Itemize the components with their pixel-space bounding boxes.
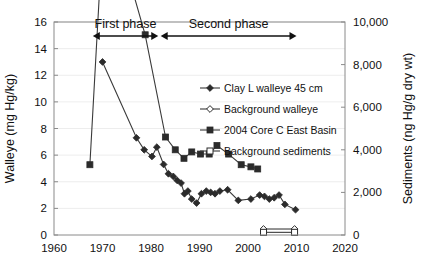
y2-tick-label: 0 bbox=[353, 229, 359, 241]
data-point-marker bbox=[181, 155, 187, 161]
y-tick-label: 12 bbox=[34, 69, 47, 81]
phase-label: First phase bbox=[95, 17, 157, 31]
x-tick-label: 2000 bbox=[235, 242, 261, 254]
legend-label: Clay L walleye 45 cm bbox=[224, 82, 323, 94]
x-tick-label: 1970 bbox=[90, 242, 116, 254]
legend-label: 2004 Core C East Basin bbox=[224, 124, 337, 136]
y-tick-label: 2 bbox=[41, 202, 47, 214]
data-point-marker bbox=[248, 164, 254, 170]
data-point-marker bbox=[189, 149, 195, 155]
x-tick-label: 1980 bbox=[138, 242, 164, 254]
x-tick-label: 2010 bbox=[284, 242, 310, 254]
data-point-marker bbox=[163, 134, 169, 140]
phase-annotations: First phaseSecond phase bbox=[93, 17, 297, 40]
walleye-sediment-mercury-chart: 0246810121416 02,0004,0006,0008,00010,00… bbox=[0, 0, 425, 269]
chart-background bbox=[0, 0, 425, 269]
x-tick-label: 1960 bbox=[41, 242, 67, 254]
y-tick-label: 16 bbox=[34, 16, 47, 28]
y2-tick-label: 4,000 bbox=[353, 144, 382, 156]
data-point-marker bbox=[292, 229, 298, 235]
y2-tick-label: 2,000 bbox=[353, 186, 382, 198]
y-axis-title: Walleye (mg Hg/kg) bbox=[3, 74, 17, 183]
legend-label: Background walleye bbox=[224, 103, 318, 115]
data-point-marker bbox=[207, 127, 213, 133]
y-tick-label: 6 bbox=[41, 149, 47, 161]
chart-root: 0246810121416 02,0004,0006,0008,00010,00… bbox=[0, 0, 425, 269]
y-tick-label: 14 bbox=[34, 43, 47, 55]
legend-label: Background sediments bbox=[224, 145, 331, 157]
x-tick-label: 1990 bbox=[187, 242, 213, 254]
data-point-marker bbox=[261, 229, 267, 235]
y2-axis-title: Sediments (ng Hg/g dry wt) bbox=[401, 53, 415, 204]
y-tick-label: 10 bbox=[34, 96, 47, 108]
y2-tick-label: 8,000 bbox=[353, 59, 382, 71]
y2-tick-label: 10,000 bbox=[353, 16, 388, 28]
y-tick-label: 4 bbox=[41, 176, 48, 188]
data-point-marker bbox=[172, 147, 178, 153]
data-point-marker bbox=[142, 32, 148, 38]
data-point-marker bbox=[214, 143, 220, 149]
phase-annotation: First phase bbox=[93, 17, 158, 40]
x-tick-label: 2020 bbox=[332, 242, 358, 254]
data-point-marker bbox=[238, 162, 244, 168]
y-tick-label: 8 bbox=[41, 123, 47, 135]
y-tick-label: 0 bbox=[41, 229, 47, 241]
data-point-marker bbox=[207, 148, 213, 154]
y2-tick-label: 6,000 bbox=[353, 101, 382, 113]
data-point-marker bbox=[87, 162, 93, 168]
data-point-marker bbox=[197, 151, 203, 157]
phase-label: Second phase bbox=[189, 17, 269, 31]
data-point-marker bbox=[255, 166, 261, 172]
